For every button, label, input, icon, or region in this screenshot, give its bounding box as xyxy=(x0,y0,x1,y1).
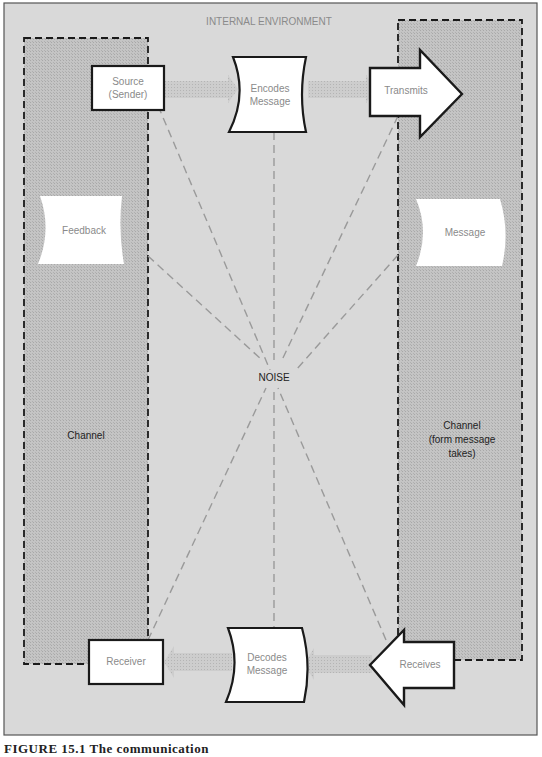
svg-text:Source: Source xyxy=(112,76,144,87)
left-channel-label: Channel xyxy=(67,430,104,441)
left-channel xyxy=(24,38,148,664)
decodes-message-shape: Decodes Message xyxy=(226,628,308,702)
feedback-shape: Feedback xyxy=(38,196,124,264)
right-channel-label-line2: (form message xyxy=(429,434,496,445)
svg-text:(Sender): (Sender) xyxy=(109,89,148,100)
message-shape: Message xyxy=(416,199,506,266)
right-channel-label-line3: takes) xyxy=(448,448,475,459)
svg-text:Receiver: Receiver xyxy=(106,656,146,667)
svg-text:Message: Message xyxy=(247,665,288,676)
source-sender-box: Source (Sender) xyxy=(92,66,164,110)
svg-text:Decodes: Decodes xyxy=(247,652,286,663)
right-channel-label-line1: Channel xyxy=(443,420,480,431)
receiver-box: Receiver xyxy=(89,640,163,684)
noise-label: NOISE xyxy=(258,372,289,383)
svg-text:Encodes: Encodes xyxy=(251,83,290,94)
internal-environment-title: INTERNAL ENVIRONMENT xyxy=(206,16,332,27)
svg-text:Receives: Receives xyxy=(399,659,440,670)
svg-text:Feedback: Feedback xyxy=(62,225,107,236)
encodes-message-shape: Encodes Message xyxy=(229,57,306,132)
svg-text:Message: Message xyxy=(250,96,291,107)
svg-text:Message: Message xyxy=(445,227,486,238)
figure-caption: FIGURE 15.1 The communication xyxy=(4,741,209,757)
svg-text:Transmits: Transmits xyxy=(384,85,428,96)
